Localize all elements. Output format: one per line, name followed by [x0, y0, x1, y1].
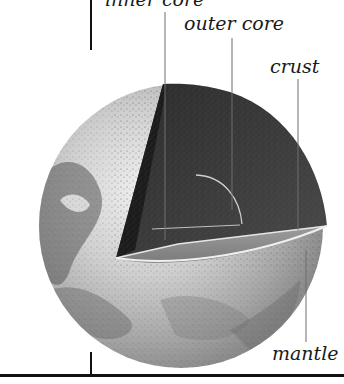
label-outer-core: outer core — [184, 14, 284, 33]
label-inner-core: inner core — [105, 0, 204, 9]
bottom-tick-rule — [90, 352, 92, 374]
left-vertical-rule — [90, 0, 92, 50]
cutaway-wedge — [110, 80, 330, 270]
label-mantle: mantle — [272, 344, 339, 363]
bottom-baseline-rule — [0, 374, 344, 377]
label-crust: crust — [270, 57, 319, 76]
